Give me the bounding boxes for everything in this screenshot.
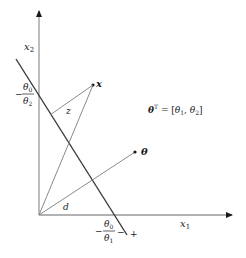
positive-side-sign: + (130, 229, 138, 239)
x-intercept-label: − θ0 θ1 (95, 219, 115, 244)
theta-vector (39, 152, 135, 215)
d-label: d (63, 202, 69, 212)
svg-text:θ2: θ2 (23, 96, 32, 107)
decision-boundary-line (16, 59, 127, 235)
theta-vector-label: θ (141, 146, 148, 157)
svg-text:θ1: θ1 (104, 233, 113, 244)
z-label: z (65, 106, 71, 116)
linear-classifier-diagram: x2 x1 x θ z d − θ0 θ2 − θ0 θ1 − + θT = [… (0, 0, 246, 258)
theta-transpose-equation: θT = [θ1, θ2] (148, 103, 203, 116)
x-vector (39, 85, 93, 215)
svg-text:−: − (15, 89, 23, 99)
svg-text:−: − (95, 226, 103, 236)
svg-text:θ0: θ0 (104, 219, 113, 230)
x1-axis-label: x1 (180, 218, 190, 231)
x2-axis-label: x2 (24, 41, 34, 54)
negative-side-sign: − (117, 227, 125, 237)
y-intercept-label: − θ0 θ2 (15, 82, 34, 107)
x-vector-label: x (95, 78, 103, 89)
